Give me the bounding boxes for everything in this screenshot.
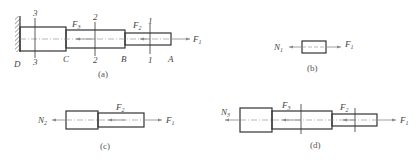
force-label-f2: F2	[339, 102, 349, 113]
point-c: C	[63, 54, 70, 64]
force-label-f3: F3	[281, 100, 291, 111]
force-label-n2: N2	[37, 115, 47, 126]
section-label-1-bottom: 1	[148, 55, 153, 65]
point-d: D	[13, 59, 21, 69]
force-label-f3: F3	[71, 19, 81, 30]
caption-a: (a)	[98, 69, 108, 79]
section-label-2-top: 2	[93, 12, 98, 22]
panel-a: 3 3 2 2 1 1 D C B A F3 F2 F1 (a)	[13, 8, 202, 79]
force-label-n1: N1	[273, 42, 283, 53]
force-label-n3: N3	[220, 107, 230, 118]
force-label-f1: F1	[192, 34, 202, 45]
force-label-f1: F1	[344, 39, 354, 50]
stepped-bar-diagram: 3 3 2 2 1 1 D C B A F3 F2 F1 (a) N1 F1 (…	[0, 0, 418, 164]
caption-b: (b)	[307, 63, 318, 73]
caption-c: (c)	[100, 141, 110, 151]
force-label-f2: F2	[115, 102, 125, 113]
force-label-f1: F1	[165, 115, 175, 126]
fixed-wall-support	[15, 16, 20, 52]
force-label-f1: F1	[399, 115, 409, 126]
section-label-1-top: 1	[148, 16, 153, 26]
section-label-3-top: 3	[32, 8, 38, 18]
force-label-f2: F2	[132, 20, 142, 31]
panel-b: N1 F1 (b)	[273, 39, 354, 73]
point-a: A	[167, 54, 174, 64]
panel-d: N3 F3 F2 F1 (d)	[220, 100, 409, 150]
caption-d: (d)	[310, 140, 321, 150]
point-b: B	[121, 54, 127, 64]
section-label-3-bottom: 3	[32, 57, 38, 67]
panel-c: N2 F2 F1 (c)	[37, 102, 175, 151]
section-label-2-bottom: 2	[93, 55, 98, 65]
